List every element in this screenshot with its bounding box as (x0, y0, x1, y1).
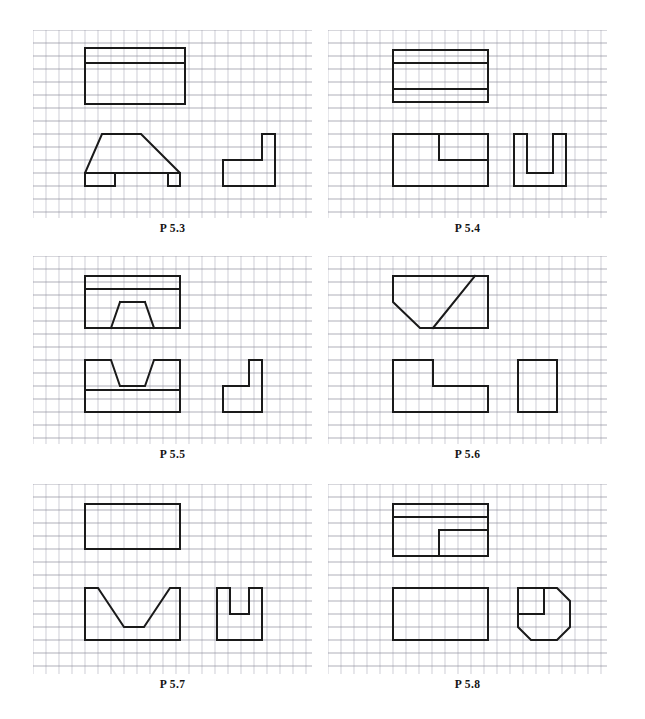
front-view (85, 134, 180, 186)
top-view (85, 48, 185, 104)
panel-label-p55: P 5.5 (33, 448, 312, 460)
panel-label-p54: P 5.4 (328, 222, 607, 234)
side-view (223, 360, 262, 412)
top-view (393, 50, 488, 102)
top-view-detail-line (111, 302, 120, 328)
front-view (85, 588, 180, 640)
front-view (85, 360, 180, 412)
orthographic-views-group (33, 484, 312, 674)
orthographic-views-group (33, 256, 312, 444)
exercise-panel-p56 (328, 256, 607, 444)
worksheet-sheet: P 5.3P 5.4P 5.5P 5.6P 5.7P 5.8 (0, 0, 645, 719)
exercise-panel-p53 (33, 30, 312, 218)
orthographic-views-group (328, 256, 607, 444)
front-view (393, 588, 488, 640)
top-view (85, 504, 180, 549)
side-view (223, 134, 275, 186)
side-view (217, 588, 262, 640)
exercise-panel-p54 (328, 30, 607, 218)
panel-label-p53: P 5.3 (33, 222, 312, 234)
panel-label-p56: P 5.6 (328, 448, 607, 460)
exercise-panel-p58 (328, 484, 607, 674)
exercise-panel-p55 (33, 256, 312, 444)
orthographic-views-group (328, 30, 607, 218)
top-view-detail-line (433, 276, 475, 328)
side-view (514, 134, 566, 186)
panel-label-p57: P 5.7 (33, 678, 312, 690)
side-view (518, 360, 557, 412)
orthographic-views-group (33, 30, 312, 218)
orthographic-views-group (328, 484, 607, 674)
front-view (393, 360, 488, 412)
top-view-detail-line (145, 302, 154, 328)
exercise-panel-p57 (33, 484, 312, 674)
panel-label-p58: P 5.8 (328, 678, 607, 690)
